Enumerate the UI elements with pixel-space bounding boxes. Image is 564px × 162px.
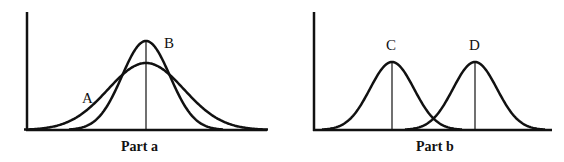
panel-part-b: C D Part b xyxy=(313,12,552,154)
panel-part-a: A B Part a xyxy=(24,12,268,154)
caption-part-b: Part b xyxy=(416,139,454,154)
curve-label-d: D xyxy=(469,37,480,53)
curve-label-c: C xyxy=(386,37,396,53)
distribution-diagram: A B Part a C D Part b xyxy=(0,0,564,162)
curve-label-a: A xyxy=(82,90,93,106)
curve-label-b: B xyxy=(164,35,174,51)
caption-part-a: Part a xyxy=(121,139,158,154)
